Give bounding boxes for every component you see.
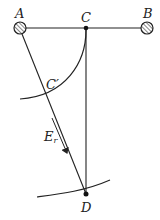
label-c: C: [81, 11, 91, 24]
label-a: A: [15, 7, 24, 20]
point-d-dot: [84, 192, 89, 197]
diagram-svg: [0, 0, 160, 220]
diagram-canvas: A B C C′ Er D: [0, 0, 160, 220]
label-d: D: [81, 201, 91, 214]
segment-ad: [22, 34, 86, 194]
label-er-main: E: [44, 129, 54, 144]
label-c-prime: C′: [46, 78, 59, 91]
label-er: Er: [44, 130, 57, 145]
point-c-dot: [84, 26, 89, 31]
label-b: B: [143, 7, 153, 20]
support-b-icon: [141, 22, 153, 34]
support-a-icon: [14, 22, 26, 34]
arc-through-d: [37, 180, 110, 197]
label-er-sub: r: [54, 136, 58, 145]
